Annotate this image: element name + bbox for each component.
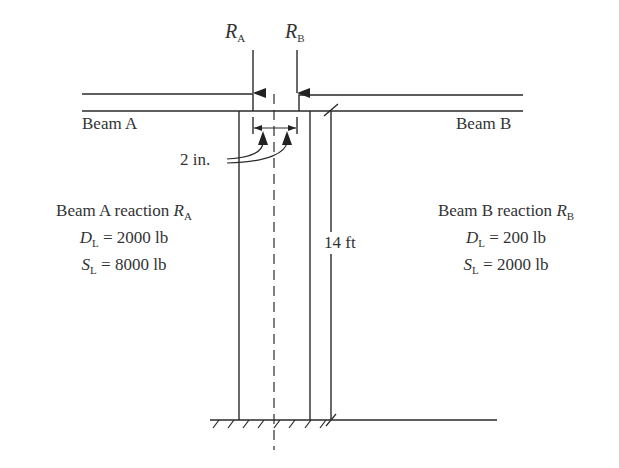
beam-a-dead-load: DL = 2000 lb <box>34 227 214 254</box>
beam-b-reaction-block: Beam B reaction RB DL = 200 lb SL = 2000… <box>418 200 594 281</box>
beam-b-dead-load: DL = 200 lb <box>418 227 594 254</box>
rb-label: RB <box>285 20 305 44</box>
offset-leader-1 <box>227 142 263 159</box>
leader-arrow-2 <box>282 131 292 145</box>
beam-b-snow-load: SL = 2000 lb <box>418 254 594 281</box>
beam-a-reaction-block: Beam A reaction RA DL = 2000 lb SL = 800… <box>34 200 214 281</box>
beam-b-reaction-title: Beam B reaction RB <box>418 200 594 227</box>
beam-a-label: Beam A <box>82 114 137 134</box>
beam-a-snow-load: SL = 8000 lb <box>34 254 214 281</box>
height-dimension-label: 14 ft <box>322 233 358 253</box>
beam-a-reaction-title: Beam A reaction RA <box>34 200 214 227</box>
ra-label: RA <box>225 20 245 44</box>
leader-arrow-1 <box>258 131 268 145</box>
beam-b-label: Beam B <box>456 114 511 134</box>
beam-a-outline <box>82 94 253 111</box>
offset-dimension-label: 2 in. <box>180 150 210 170</box>
